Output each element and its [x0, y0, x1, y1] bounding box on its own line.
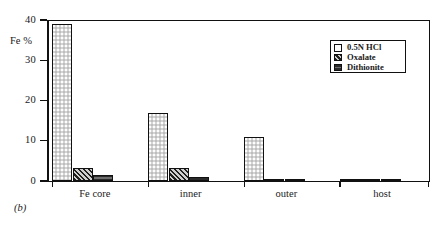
y-axis-tick-label: 30 — [0, 55, 36, 66]
y-axis-tick — [40, 140, 47, 141]
bar — [52, 24, 72, 181]
y-axis-tick-label: 40 — [0, 15, 36, 26]
x-axis-category-label: Fe core — [47, 189, 143, 200]
y-axis-tick-label: 10 — [0, 135, 36, 146]
x-axis-category-label: host — [334, 189, 430, 200]
x-axis-tick — [148, 182, 149, 187]
bar — [381, 179, 401, 181]
y-axis-tick — [40, 60, 47, 61]
bar — [264, 179, 284, 181]
bar — [285, 179, 305, 181]
hatched-square-swatch — [334, 54, 342, 62]
x-axis-category-label: inner — [143, 189, 239, 200]
x-axis-tick — [339, 182, 340, 187]
y-axis-tick-label: 0 — [0, 176, 36, 187]
x-axis-tick — [52, 182, 53, 187]
legend-item: Oxalate — [334, 53, 405, 63]
legend-item-label: Dithionite — [347, 63, 384, 72]
y-axis-tick — [40, 19, 47, 20]
legend-item: Dithionite — [334, 63, 405, 73]
legend: 0.5N HClOxalateDithionite — [330, 40, 406, 73]
y-axis-tick-label: 20 — [0, 95, 36, 106]
bar — [169, 168, 189, 181]
y-axis-tick — [40, 180, 47, 181]
dark-banded-square-swatch — [334, 64, 342, 72]
legend-item-label: Oxalate — [347, 53, 376, 62]
x-axis-tick — [428, 182, 429, 187]
bar — [189, 177, 209, 181]
y-axis-title: Fe % — [10, 36, 32, 47]
figure-caption: (b) — [14, 203, 26, 214]
x-axis-tick — [244, 182, 245, 187]
bar — [340, 179, 360, 181]
bar — [148, 113, 168, 181]
x-axis-category-label: outer — [239, 189, 335, 200]
bar — [73, 168, 93, 181]
legend-item-label: 0.5N HCl — [347, 43, 381, 52]
bar-chart-figure: Fe % 010203040 Fe coreinnerouterhost 0.5… — [0, 0, 448, 227]
bar — [360, 179, 380, 181]
y-axis-tick — [40, 100, 47, 101]
open-square-swatch — [334, 44, 342, 52]
bar — [93, 175, 113, 181]
legend-item: 0.5N HCl — [334, 43, 405, 53]
bar — [244, 137, 264, 181]
